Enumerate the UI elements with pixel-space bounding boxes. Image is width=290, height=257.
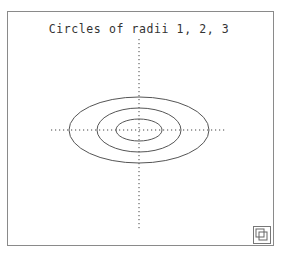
concentric-ellipses-plot [0,0,290,257]
resize-window-icon [254,227,270,243]
axes [51,39,227,230]
resize-window-button[interactable] [253,226,271,244]
